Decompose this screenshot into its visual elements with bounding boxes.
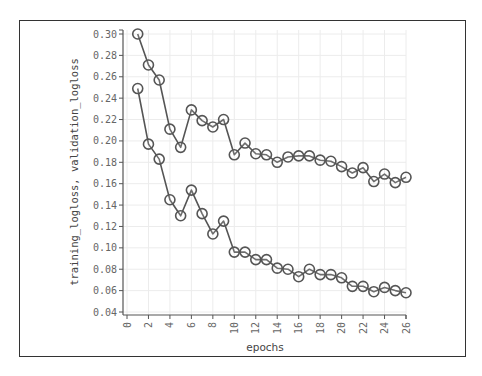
x-tick-label: 18 xyxy=(315,322,326,334)
y-tick-label: 0.04 xyxy=(93,307,117,318)
x-tick-label: 24 xyxy=(379,322,390,334)
data-point-marker[interactable] xyxy=(326,156,336,166)
data-point-marker[interactable] xyxy=(165,195,175,205)
data-point-marker[interactable] xyxy=(315,270,325,280)
data-point-marker[interactable] xyxy=(283,152,293,162)
data-point-marker[interactable] xyxy=(401,172,411,182)
data-point-marker[interactable] xyxy=(154,75,164,85)
data-point-marker[interactable] xyxy=(197,116,207,126)
data-point-marker[interactable] xyxy=(186,185,196,195)
y-tick-label: 0.10 xyxy=(93,242,117,253)
data-point-marker[interactable] xyxy=(229,150,239,160)
y-axis-title: training_logloss, validation_logloss xyxy=(68,58,81,286)
y-tick-label: 0.12 xyxy=(93,221,117,232)
x-tick-label: 14 xyxy=(272,322,283,334)
data-point-marker[interactable] xyxy=(262,150,272,160)
data-point-marker[interactable] xyxy=(283,264,293,274)
data-point-marker[interactable] xyxy=(143,60,153,70)
x-axis-title: epochs xyxy=(246,341,283,353)
data-point-marker[interactable] xyxy=(369,177,379,187)
y-tick-label: 0.24 xyxy=(93,93,117,104)
data-point-marker[interactable] xyxy=(240,247,250,257)
data-point-marker[interactable] xyxy=(272,263,282,273)
data-point-marker[interactable] xyxy=(358,281,368,291)
data-point-marker[interactable] xyxy=(390,286,400,296)
data-point-marker[interactable] xyxy=(197,209,207,219)
data-point-marker[interactable] xyxy=(251,149,261,159)
x-tick-label: 16 xyxy=(293,322,304,334)
data-series xyxy=(133,29,411,298)
line-chart: 0.300.280.260.240.220.200.180.160.140.12… xyxy=(0,0,482,376)
data-point-marker[interactable] xyxy=(294,151,304,161)
data-point-marker[interactable] xyxy=(176,211,186,221)
y-tick-label: 0.28 xyxy=(93,50,117,61)
data-point-marker[interactable] xyxy=(208,122,218,132)
data-point-marker[interactable] xyxy=(272,157,282,167)
data-point-marker[interactable] xyxy=(337,273,347,283)
data-point-marker[interactable] xyxy=(326,270,336,280)
data-point-marker[interactable] xyxy=(186,105,196,115)
data-point-marker[interactable] xyxy=(304,264,314,274)
data-point-marker[interactable] xyxy=(229,247,239,257)
data-point-marker[interactable] xyxy=(154,154,164,164)
series-training-logloss xyxy=(133,84,411,298)
data-point-marker[interactable] xyxy=(380,282,390,292)
data-point-marker[interactable] xyxy=(358,163,368,173)
x-tick-label: 2 xyxy=(143,322,154,328)
data-point-marker[interactable] xyxy=(315,155,325,165)
x-tick-label: 20 xyxy=(336,322,347,334)
x-tick-label: 22 xyxy=(358,322,369,334)
y-tick-label: 0.20 xyxy=(93,135,117,146)
data-point-marker[interactable] xyxy=(380,169,390,179)
y-tick-label: 0.30 xyxy=(93,29,117,40)
y-tick-label: 0.06 xyxy=(93,285,117,296)
data-point-marker[interactable] xyxy=(347,168,357,178)
data-point-marker[interactable] xyxy=(133,84,143,94)
data-point-marker[interactable] xyxy=(208,229,218,239)
x-tick-label: 26 xyxy=(401,322,412,334)
data-point-marker[interactable] xyxy=(176,142,186,152)
data-point-marker[interactable] xyxy=(401,288,411,298)
x-tick-label: 0 xyxy=(122,322,133,328)
data-point-marker[interactable] xyxy=(240,138,250,148)
x-tick-label: 12 xyxy=(250,322,261,334)
data-point-marker[interactable] xyxy=(143,139,153,149)
y-tick-label: 0.08 xyxy=(93,264,117,275)
data-point-marker[interactable] xyxy=(165,124,175,134)
x-tick-label: 10 xyxy=(229,322,240,334)
y-axis-ticks: 0.300.280.260.240.220.200.180.160.140.12… xyxy=(93,29,123,318)
data-point-marker[interactable] xyxy=(337,162,347,172)
data-point-marker[interactable] xyxy=(304,151,314,161)
y-tick-label: 0.18 xyxy=(93,157,117,168)
data-point-marker[interactable] xyxy=(347,281,357,291)
y-tick-label: 0.16 xyxy=(93,178,117,189)
x-axis-ticks: 02468101214161820222426 xyxy=(122,315,412,334)
data-point-marker[interactable] xyxy=(369,287,379,297)
data-point-marker[interactable] xyxy=(219,216,229,226)
data-point-marker[interactable] xyxy=(294,272,304,282)
y-tick-label: 0.26 xyxy=(93,71,117,82)
y-tick-label: 0.22 xyxy=(93,114,117,125)
series-validation-logloss xyxy=(133,29,411,188)
data-point-marker[interactable] xyxy=(262,255,272,265)
x-tick-label: 4 xyxy=(164,322,175,328)
x-tick-label: 8 xyxy=(207,322,218,328)
data-point-marker[interactable] xyxy=(133,29,143,39)
data-point-marker[interactable] xyxy=(219,115,229,125)
x-tick-label: 6 xyxy=(186,322,197,328)
y-tick-label: 0.14 xyxy=(93,200,117,211)
data-point-marker[interactable] xyxy=(251,255,261,265)
data-point-marker[interactable] xyxy=(390,178,400,188)
